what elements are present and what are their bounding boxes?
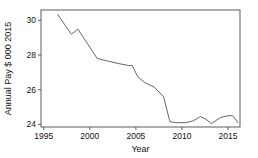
x-axis-title: Year — [131, 144, 149, 154]
x-tick-label: 2015 — [219, 131, 238, 141]
y-axis-title: Annual Pay $ 000 2015 — [3, 22, 13, 116]
y-tick-label: 24 — [27, 119, 37, 129]
y-tick-label: 28 — [27, 50, 37, 60]
y-tick-label: 30 — [27, 15, 37, 25]
x-tick-label: 2005 — [126, 131, 145, 141]
line-chart-figure: 24262830 19952000200520102015 Year Annua… — [0, 0, 258, 158]
y-tick-label: 26 — [27, 85, 37, 95]
x-tick-label: 2010 — [172, 131, 191, 141]
x-tick-label: 1995 — [34, 131, 53, 141]
x-tick-label: 2000 — [80, 131, 99, 141]
